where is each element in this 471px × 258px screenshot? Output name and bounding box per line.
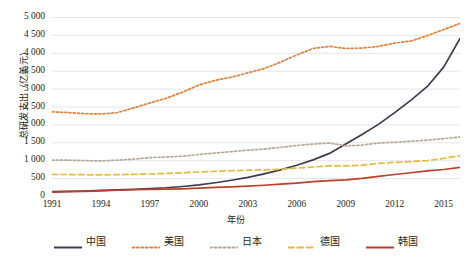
- y-tick-label: 1 500: [0, 137, 45, 146]
- plot-area: [52, 17, 460, 196]
- y-tick-label: 4 500: [0, 30, 45, 39]
- y-tick-label: 2 500: [0, 102, 45, 111]
- series-line-美国: [52, 23, 460, 114]
- chart-svg: [52, 17, 460, 196]
- y-tick-label: 0: [0, 191, 45, 200]
- legend-item-德国[interactable]: 德国: [288, 237, 340, 247]
- x-tick-label: 2003: [228, 200, 268, 209]
- x-tick-label: 2012: [375, 200, 415, 209]
- x-tick-label: 2006: [277, 200, 317, 209]
- legend-label: 日本: [242, 237, 262, 247]
- series-line-日本: [52, 137, 460, 161]
- x-tick-label: 1997: [130, 200, 170, 209]
- series-line-中国: [52, 38, 460, 191]
- chart-container: 总研发支出（亿美元） 05001 0001 5002 0002 5003 000…: [0, 0, 471, 258]
- x-tick-label: 1994: [81, 200, 121, 209]
- y-tick-label: 1 000: [0, 155, 45, 164]
- y-tick-label: 2 000: [0, 119, 45, 128]
- x-tick-label: 2009: [326, 200, 366, 209]
- legend-swatch: [54, 238, 82, 247]
- legend-swatch: [210, 238, 238, 247]
- x-tick-label: 2015: [424, 200, 464, 209]
- series-line-韩国: [52, 167, 460, 192]
- legend-item-美国[interactable]: 美国: [132, 237, 184, 247]
- legend-item-中国[interactable]: 中国: [54, 237, 106, 247]
- x-axis-title: 年份: [0, 212, 471, 226]
- y-tick-label: 500: [0, 173, 45, 182]
- legend-item-日本[interactable]: 日本: [210, 237, 262, 247]
- y-tick-label: 5 000: [0, 12, 45, 21]
- legend-label: 中国: [86, 237, 106, 247]
- series-line-德国: [52, 156, 460, 175]
- legend-swatch: [366, 238, 394, 247]
- legend-label: 美国: [164, 237, 184, 247]
- legend-swatch: [132, 238, 160, 247]
- legend-swatch: [288, 238, 316, 247]
- legend-label: 德国: [320, 237, 340, 247]
- x-tick-label: 1991: [32, 200, 72, 209]
- y-tick-label: 3 500: [0, 66, 45, 75]
- legend-item-韩国[interactable]: 韩国: [366, 237, 418, 247]
- x-tick-label: 2000: [179, 200, 219, 209]
- legend-label: 韩国: [398, 237, 418, 247]
- chart-legend: 中国美国日本德国韩国: [0, 232, 471, 252]
- y-tick-label: 4 000: [0, 48, 45, 57]
- y-tick-label: 3 000: [0, 84, 45, 93]
